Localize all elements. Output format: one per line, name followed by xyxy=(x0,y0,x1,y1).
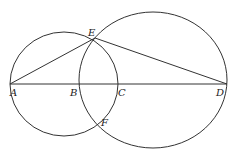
label-B: B xyxy=(69,87,77,98)
geometry-diagram: A B C D E F xyxy=(0,0,232,154)
segment-ED xyxy=(95,38,227,84)
label-E: E xyxy=(87,27,96,38)
label-D: D xyxy=(215,87,224,98)
label-A: A xyxy=(9,87,17,98)
label-F: F xyxy=(100,117,109,128)
label-C: C xyxy=(118,87,126,98)
